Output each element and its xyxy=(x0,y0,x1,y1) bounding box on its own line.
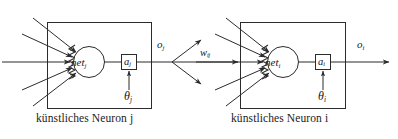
neuron-i-output-label: oi xyxy=(357,39,364,51)
connection-weight-label: wij xyxy=(200,48,210,59)
neuron-j-inputs xyxy=(2,18,76,106)
neuron-j-caption: künstliches Neuron j xyxy=(36,112,133,124)
neuron-i-net-label: neti xyxy=(265,57,280,69)
neuron-j-activation-label: aj xyxy=(124,57,131,68)
neuron-j-net-label: netj xyxy=(71,57,86,69)
neural-network-diagram: netj aj θj oj wij neti ai θi oi künstlic… xyxy=(0,0,398,139)
neuron-i-inputs xyxy=(196,18,269,106)
neuron-j-output-label: oj xyxy=(157,39,164,51)
neuron-j-threshold-label: θj xyxy=(124,90,132,103)
neuron-i-activation-label: ai xyxy=(318,57,325,68)
neuron-i-caption: künstliches Neuron i xyxy=(231,112,328,124)
neuron-i-threshold-label: θi xyxy=(318,90,326,103)
